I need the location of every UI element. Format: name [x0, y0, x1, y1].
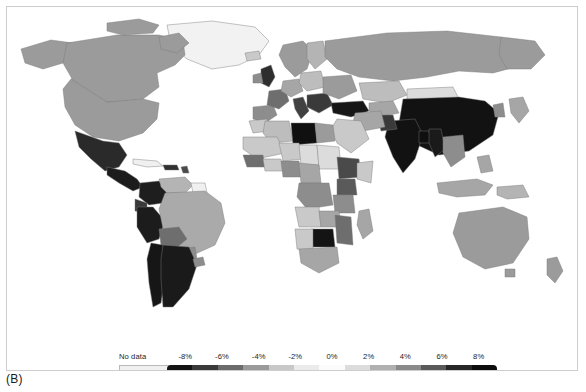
region-ghana-ivory: [263, 159, 283, 171]
region-egypt: [315, 123, 335, 143]
legend-tick-8: 8%: [473, 352, 484, 361]
region-libya: [291, 123, 317, 145]
legend-tick-3: -2%: [288, 352, 302, 361]
legend-tick-0: -8%: [178, 352, 192, 361]
legend-tick-labels: -8%-6%-4%-2%0%2%4%6%8%: [167, 352, 507, 364]
world-map-canvas: [7, 7, 577, 337]
legend-no-data-swatch: [119, 365, 169, 371]
legend-segment-6: [319, 365, 344, 371]
panel-label: (B): [6, 372, 23, 386]
region-somalia: [357, 161, 373, 183]
legend-segment-7: [345, 365, 370, 371]
region-uruguay: [193, 257, 205, 267]
legend-segment-3: [243, 365, 268, 371]
region-tasmania: [505, 269, 515, 277]
legend-tick-6: 4%: [400, 352, 411, 361]
legend-color-scale: -8%-6%-4%-2%0%2%4%6%8%: [167, 352, 507, 371]
legend-no-data-label: No data: [119, 352, 146, 361]
legend-tick-2: -4%: [252, 352, 266, 361]
legend-color-bar: [167, 365, 497, 371]
region-papua-new-guinea: [497, 185, 529, 199]
legend-segment-9: [396, 365, 421, 371]
map-legend: No data -8%-6%-4%-2%0%2%4%6%8%: [119, 352, 519, 371]
figure-panel: No data -8%-6%-4%-2%0%2%4%6%8% (B): [0, 0, 586, 392]
region-angola: [295, 207, 321, 227]
region-chad: [299, 145, 319, 165]
legend-tick-5: 2%: [363, 352, 374, 361]
legend-segment-12: [472, 365, 497, 371]
region-tanzania: [333, 195, 355, 213]
legend-tick-7: 6%: [436, 352, 447, 361]
region-korea: [493, 103, 505, 117]
region-cameroon-car: [299, 163, 321, 183]
legend-segment-5: [294, 365, 319, 371]
legend-segment-0: [167, 365, 192, 371]
region-iceland: [245, 51, 261, 61]
legend-segment-10: [421, 365, 446, 371]
region-kenya: [337, 179, 357, 195]
region-zimbabwe: [311, 229, 335, 247]
legend-segment-1: [192, 365, 217, 371]
legend-segment-8: [370, 365, 395, 371]
legend-tick-1: -6%: [215, 352, 229, 361]
legend-segment-4: [269, 365, 294, 371]
legend-segment-2: [218, 365, 243, 371]
legend-tick-4: 0%: [326, 352, 337, 361]
world-map-svg: [7, 7, 577, 337]
region-west-africa-coast: [243, 155, 265, 167]
region-hispaniola: [163, 165, 179, 170]
region-ireland: [253, 73, 263, 83]
legend-segment-11: [446, 365, 471, 371]
region-nigeria: [281, 161, 301, 177]
region-mozambique: [335, 215, 353, 245]
map-frame: No data -8%-6%-4%-2%0%2%4%6%8%: [6, 6, 578, 371]
region-namibia-botswana: [295, 229, 313, 251]
